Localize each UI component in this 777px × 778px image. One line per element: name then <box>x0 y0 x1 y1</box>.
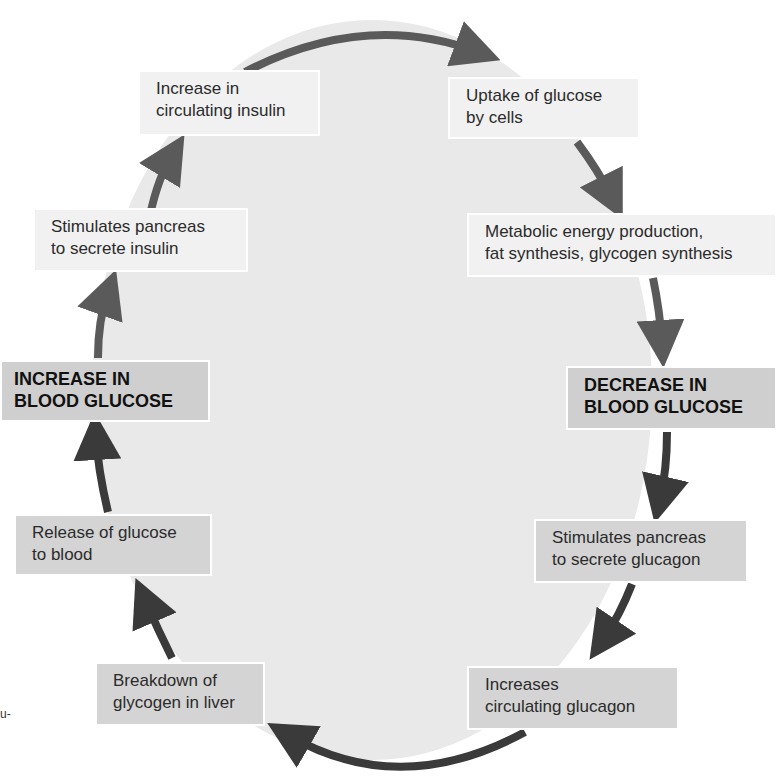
node-label-line1: Metabolic energy production, <box>485 221 765 243</box>
arrow-top <box>245 35 478 72</box>
node-label-line2: BLOOD GLUCOSE <box>14 390 198 412</box>
cropped-text-fragment: u- <box>0 707 11 721</box>
node-metabolic-energy-production: Metabolic energy production, fat synthes… <box>467 213 777 277</box>
node-stimulates-pancreas-insulin: Stimulates pancreas to secrete insulin <box>33 208 248 272</box>
node-label-line2: to secrete glucagon <box>552 549 736 571</box>
node-label-line2: to secrete insulin <box>51 238 236 260</box>
node-increase-in-blood-glucose: INCREASE IN BLOOD GLUCOSE <box>0 360 210 422</box>
node-label-line1: INCREASE IN <box>14 368 198 390</box>
node-label-line2: BLOOD GLUCOSE <box>584 396 765 418</box>
arrow-right-lower <box>660 432 667 500</box>
node-label-line2: fat synthesis, glycogen synthesis <box>485 243 765 265</box>
node-increase-circulating-insulin: Increase in circulating insulin <box>138 70 320 136</box>
arrow-right-bottom <box>603 584 632 640</box>
node-label-line2: circulating glucagon <box>485 696 667 718</box>
node-label-line2: glycogen in liver <box>113 692 253 714</box>
node-release-of-glucose: Release of glucose to blood <box>14 514 212 576</box>
node-label-line2: to blood <box>32 544 200 566</box>
arrow-right-upper <box>577 142 612 198</box>
arrow-right-mid <box>653 278 662 344</box>
arrow-left-bottom <box>96 436 108 512</box>
node-stimulates-pancreas-glucagon: Stimulates pancreas to secrete glucagon <box>534 519 748 583</box>
node-label-line1: Stimulates pancreas <box>552 527 736 549</box>
arrow-bottom <box>288 732 525 767</box>
node-uptake-of-glucose: Uptake of glucose by cells <box>448 77 640 139</box>
node-label-line1: Increases <box>485 674 667 696</box>
node-breakdown-of-glycogen: Breakdown of glycogen in liver <box>95 662 265 726</box>
arrow-left-upper <box>150 155 172 215</box>
node-label-line1: Breakdown of <box>113 670 253 692</box>
node-label-line1: DECREASE IN <box>584 374 765 396</box>
node-label-line1: Increase in <box>156 78 308 100</box>
arrow-left-mid <box>98 292 108 358</box>
node-label-line1: Release of glucose <box>32 522 200 544</box>
node-decrease-in-blood-glucose: DECREASE IN BLOOD GLUCOSE <box>566 366 777 430</box>
node-label-line2: by cells <box>466 107 628 129</box>
node-label-line2: circulating insulin <box>156 100 308 122</box>
arrow-left-lower <box>145 600 172 658</box>
node-label-line1: Uptake of glucose <box>466 85 628 107</box>
node-label-line1: Stimulates pancreas <box>51 216 236 238</box>
node-increases-circulating-glucagon: Increases circulating glucagon <box>467 666 679 730</box>
